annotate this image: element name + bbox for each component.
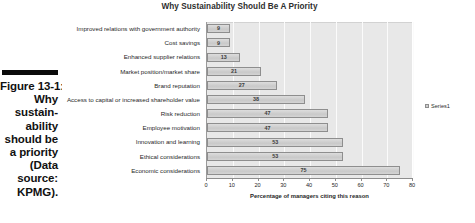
x-tick-mark (283, 178, 284, 181)
bar-row: 27 (207, 79, 412, 93)
category-label: Economic considerations (62, 164, 203, 178)
category-label: Ethical considerations (62, 150, 203, 164)
bar-value-label: 47 (265, 124, 271, 133)
bar-value-label: 9 (217, 39, 220, 48)
x-tick-mark (361, 178, 362, 181)
x-tick-mark (206, 178, 207, 181)
caption-line: Why (0, 93, 58, 106)
x-tick-label: 50 (332, 182, 338, 188)
bar-value-label: 27 (239, 81, 245, 90)
bar-rows: 99132127384747535375 (207, 22, 412, 178)
category-label: Improved relations with government autho… (62, 22, 203, 36)
x-tick-label: 40 (306, 182, 312, 188)
bar-value-label: 53 (272, 138, 278, 147)
bar-value-label: 53 (272, 152, 278, 161)
figure-caption: Figure 13-1:Whysustain-abilityshould bea… (0, 70, 62, 199)
bar-row: 47 (207, 121, 412, 135)
category-label: Enhanced supplier relations (62, 50, 203, 64)
category-label: Risk reduction (62, 107, 203, 121)
bar-value-label: 9 (217, 24, 220, 33)
bar-value-label: 38 (253, 95, 259, 104)
x-tick-mark (386, 178, 387, 181)
x-tick-label: 0 (204, 182, 207, 188)
x-tick-mark (258, 178, 259, 181)
chart-title: Why Sustainability Should Be A Priority (62, 2, 417, 11)
chart-legend[interactable]: Series1 (425, 103, 450, 109)
x-axis-title: Percentage of managers citing this reaso… (206, 193, 413, 199)
chart-canvas: Why Sustainability Should Be A Priority … (62, 0, 475, 223)
caption-line: KPMG). (0, 186, 58, 199)
category-label: Brand reputation (62, 79, 203, 93)
caption-line: ability (0, 120, 58, 133)
caption-line: sustain- (0, 106, 58, 119)
x-tick-label: 30 (280, 182, 286, 188)
caption-line: (Data (0, 159, 58, 172)
bar-row: 9 (207, 22, 412, 36)
plot-area: 99132127384747535375 (206, 22, 412, 178)
category-label: Access to capital or increased sharehold… (62, 93, 203, 107)
bar-row: 47 (207, 107, 412, 121)
gridline (413, 22, 414, 178)
caption-text: Figure 13-1:Whysustain-abilityshould bea… (0, 80, 62, 199)
caption-line: Figure 13-1: (0, 80, 58, 93)
category-label: Innovation and learning (62, 135, 203, 149)
category-label: Employee motivation (62, 121, 203, 135)
caption-line: should be (0, 133, 58, 146)
bar-row: 21 (207, 65, 412, 79)
category-label: Cost savings (62, 36, 203, 50)
x-tick-label: 80 (409, 182, 415, 188)
x-tick-mark (412, 178, 413, 181)
bar-row: 13 (207, 50, 412, 64)
legend-swatch-icon (425, 104, 429, 108)
caption-divider-rule (2, 70, 58, 75)
x-tick-mark (232, 178, 233, 181)
bar-value-label: 75 (301, 166, 307, 175)
x-tick-mark (335, 178, 336, 181)
x-tick-mark (309, 178, 310, 181)
x-tick-label: 10 (229, 182, 235, 188)
bar-row: 38 (207, 93, 412, 107)
bar-row: 53 (207, 135, 412, 149)
category-axis-labels: Improved relations with government autho… (62, 22, 203, 178)
x-tick-label: 70 (383, 182, 389, 188)
caption-line: a priority (0, 146, 58, 159)
x-tick-label: 20 (254, 182, 260, 188)
caption-line: source: (0, 172, 58, 185)
bar-row: 75 (207, 164, 412, 178)
bar-row: 9 (207, 36, 412, 50)
bar-value-label: 13 (221, 53, 227, 62)
bar-row: 53 (207, 150, 412, 164)
legend-label: Series1 (431, 103, 450, 109)
bar-value-label: 21 (231, 67, 237, 76)
x-tick-label: 60 (357, 182, 363, 188)
bar-value-label: 47 (265, 109, 271, 118)
category-label: Market position/market share (62, 65, 203, 79)
